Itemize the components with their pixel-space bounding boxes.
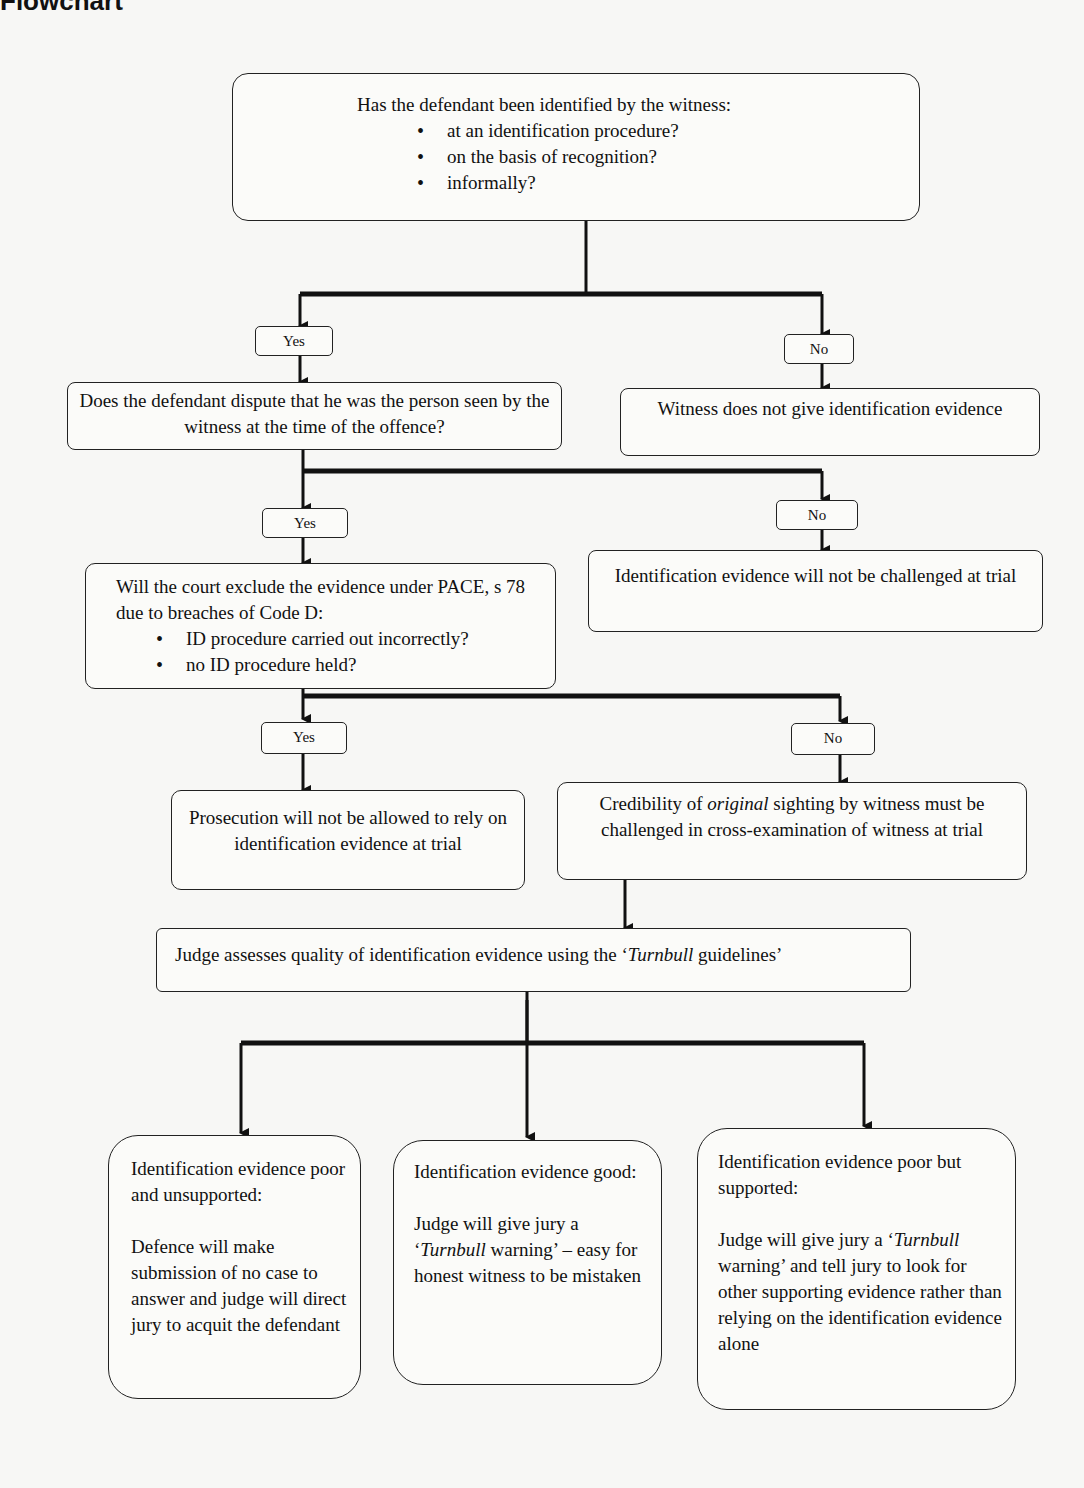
outcome-heading: Identification evidence poor but support… bbox=[718, 1149, 1005, 1201]
bullet-item: informally? bbox=[417, 170, 919, 196]
question-defendant-disputes: Does the defendant dispute that he was t… bbox=[67, 382, 562, 450]
outcome-body-pre: Judge will give jury a ‘ bbox=[718, 1229, 894, 1250]
outcome-poor-supported: Identification evidence poor but support… bbox=[697, 1128, 1016, 1410]
outcome-good: Identification evidence good: Judge will… bbox=[393, 1140, 662, 1385]
result-no-identification-evidence: Witness does not give identification evi… bbox=[620, 388, 1040, 456]
bullet-list: at an identification procedure? on the b… bbox=[417, 118, 919, 196]
judge-assesses-quality: Judge assesses quality of identification… bbox=[156, 928, 911, 992]
result-text: Prosecution will not be allowed to rely … bbox=[189, 807, 507, 854]
result-text: Identification evidence will not be chal… bbox=[615, 565, 1016, 586]
judge-text-post: guidelines’ bbox=[693, 944, 782, 965]
outcome-heading: Identification evidence poor and unsuppo… bbox=[131, 1156, 348, 1208]
label-yes: Yes bbox=[255, 326, 333, 356]
label-no: No bbox=[776, 500, 858, 530]
outcome-body-post: warning’ and tell jury to look for other… bbox=[718, 1255, 1002, 1354]
question-title: Has the defendant been identified by the… bbox=[357, 92, 919, 118]
question-title: Will the court exclude the evidence unde… bbox=[116, 574, 545, 626]
result-prosecution-cannot-rely: Prosecution will not be allowed to rely … bbox=[171, 790, 525, 890]
bullet-list: ID procedure carried out incorrectly? no… bbox=[156, 626, 545, 678]
label-yes: Yes bbox=[261, 722, 347, 754]
bullet-item: ID procedure carried out incorrectly? bbox=[156, 626, 545, 652]
outcome-body-emphasis: Turnbull bbox=[420, 1239, 485, 1260]
outcome-body: Judge will give jury a ‘Turnbull warning… bbox=[718, 1227, 1005, 1357]
question-identified-by-witness: Has the defendant been identified by the… bbox=[232, 73, 920, 221]
bullet-item: no ID procedure held? bbox=[156, 652, 545, 678]
judge-text-pre: Judge assesses quality of identification… bbox=[175, 944, 628, 965]
judge-text-emphasis: Turnbull bbox=[628, 944, 693, 965]
result-text-pre: Credibility of bbox=[600, 793, 708, 814]
outcome-body: Judge will give jury a ‘Turnbull warning… bbox=[414, 1211, 649, 1289]
outcome-body: Defence will make submission of no case … bbox=[131, 1234, 348, 1338]
outcome-body-emphasis: Turnbull bbox=[894, 1229, 959, 1250]
label-no: No bbox=[791, 723, 875, 755]
bullet-item: at an identification procedure? bbox=[417, 118, 919, 144]
result-challenge-credibility: Credibility of original sighting by witn… bbox=[557, 782, 1027, 880]
label-yes: Yes bbox=[262, 508, 348, 538]
question-text: Does the defendant dispute that he was t… bbox=[79, 390, 549, 437]
outcome-poor-unsupported: Identification evidence poor and unsuppo… bbox=[108, 1135, 361, 1399]
result-text: Witness does not give identification evi… bbox=[658, 398, 1003, 419]
bullet-item: on the basis of recognition? bbox=[417, 144, 919, 170]
result-text-emphasis: original bbox=[707, 793, 768, 814]
label-no: No bbox=[784, 334, 854, 364]
question-exclude-evidence: Will the court exclude the evidence unde… bbox=[85, 563, 556, 689]
result-not-challenged: Identification evidence will not be chal… bbox=[588, 550, 1043, 632]
outcome-heading: Identification evidence good: bbox=[414, 1159, 649, 1185]
